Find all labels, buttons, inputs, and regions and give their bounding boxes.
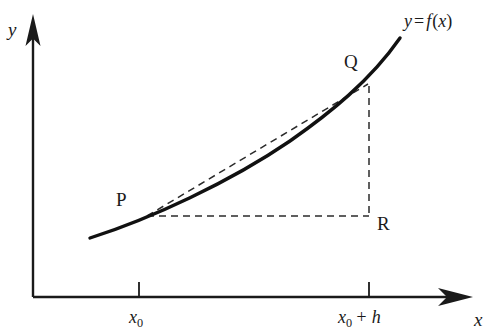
x-axis-label: x [474, 310, 482, 329]
tick1-main: x [338, 307, 346, 327]
point-label-R: R [377, 214, 390, 233]
diagram-canvas [0, 0, 495, 335]
derivative-secant-diagram: y x y=f(x) P Q R x0 x0+ h [0, 0, 495, 335]
curve-label-y: y [404, 11, 412, 31]
curve-label-x: x [438, 11, 446, 31]
secant-line-PQ [147, 84, 368, 216]
tick0-subscript: 0 [137, 316, 143, 330]
y-axis-label: y [8, 20, 16, 39]
tick0-main: x [129, 307, 137, 327]
x-tick-label-x0-plus-h: x0+ h [338, 308, 381, 329]
tick1-extra: + h [355, 307, 381, 327]
curve-label-equals: = [414, 11, 424, 31]
curve-label-close-paren: ) [446, 11, 452, 31]
x-tick-label-x0: x0 [129, 308, 143, 329]
point-label-P: P [116, 190, 127, 209]
point-label-Q: Q [344, 52, 358, 71]
tick1-subscript: 0 [346, 316, 352, 330]
curve-label-f: f [426, 11, 431, 31]
curve-equation-label: y=f(x) [404, 12, 452, 30]
